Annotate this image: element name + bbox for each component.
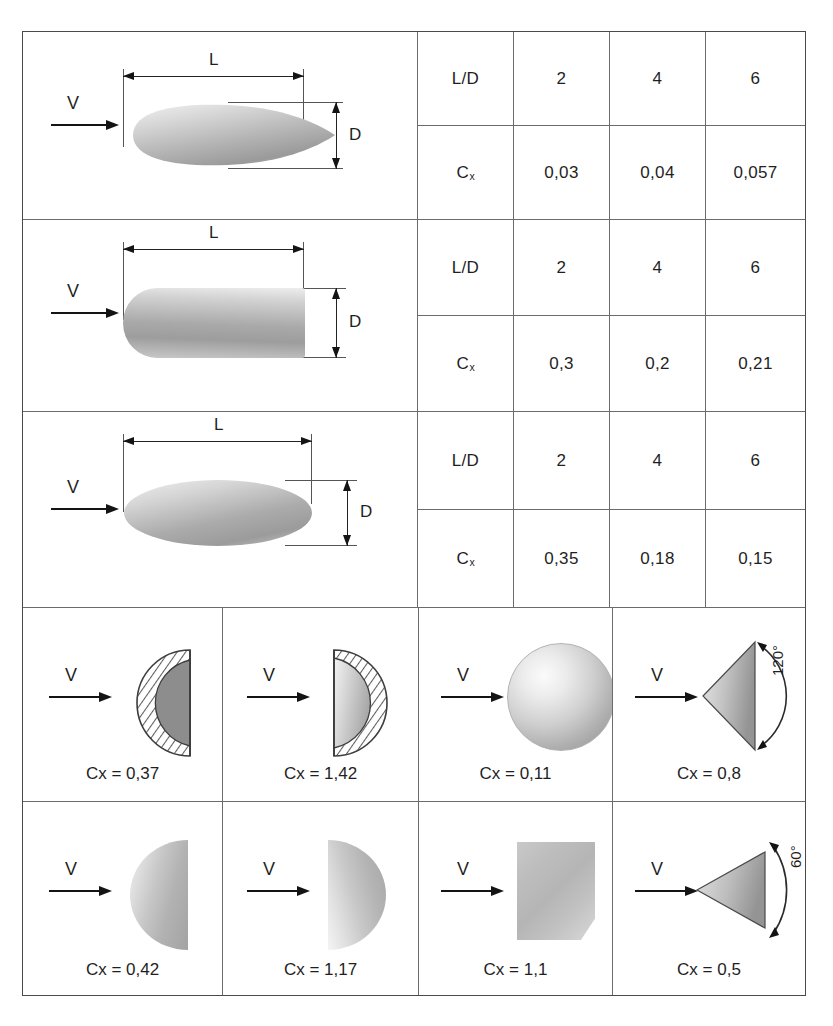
extension-line-bottom-1: [228, 168, 343, 169]
extension-line-top-1: [228, 102, 343, 103]
dimension-label-length-2: L: [205, 223, 222, 243]
figure-cell-cone-60-deg: V 60° Cx = 0,5: [613, 802, 805, 995]
art-sphere: [507, 643, 613, 751]
art-hollow-hemisphere-convex-upstream: [128, 648, 198, 758]
velocity-label: V: [65, 859, 77, 880]
dim-arrow-right-3: [301, 437, 312, 445]
velocity-label: V: [67, 477, 79, 498]
cell-cx-label-3: Cx: [418, 510, 514, 608]
figure-cell-solid-hemisphere-dome-upstream: V Cx = 0,42: [23, 802, 223, 995]
velocity-arrow-icon: [247, 886, 309, 897]
velocity-arrow-icon: [51, 308, 119, 319]
extension-line-left-1: [123, 69, 124, 147]
velocity-arrow-icon: [49, 692, 111, 703]
velocity-label: V: [67, 93, 79, 114]
caption-solid-hemisphere-dome-upstream: Cx = 0,42: [23, 960, 222, 980]
velocity-arrow-icon: [51, 120, 119, 131]
cell-cx-value-1-1: 0,03: [514, 126, 610, 220]
dim-arrow-left-1: [123, 72, 134, 80]
extension-line-left-3: [123, 434, 124, 512]
figure-cell-cube: V Cx = 1,1: [419, 802, 613, 995]
drag-coefficient-chart: V L D L/D 2 4 6 Cx 0,03 0,04 0,057: [22, 31, 806, 996]
dim-arrow-down-2: [332, 347, 340, 358]
shape-panel-round-nosed-cylinder: V L D: [23, 220, 418, 412]
velocity-arrow-icon: [51, 504, 119, 515]
caption-sphere: Cx = 0,11: [419, 764, 612, 784]
dim-arrow-right-2: [293, 245, 304, 253]
cell-ratio-label-3: L/D: [418, 412, 514, 510]
art-cube: [517, 842, 595, 940]
dimension-line-length-1: [123, 76, 304, 77]
velocity-arrow-icon: [441, 886, 503, 897]
cell-ratio-label-1: L/D: [418, 32, 514, 126]
extension-line-left-2: [123, 242, 124, 320]
shape-panel-ellipsoid: V L D: [23, 412, 418, 608]
figure-cell-hollow-hemisphere-convex-upstream: V Cx = 0,37: [23, 608, 223, 802]
cell-cx-value-2-3: 0,21: [706, 316, 805, 412]
velocity-label: V: [457, 665, 469, 686]
dim-arrow-up-2: [332, 288, 340, 299]
cell-cx-label-2: Cx: [418, 316, 514, 412]
velocity-label: V: [263, 859, 275, 880]
figure-cell-sphere: V Cx = 0,11: [419, 608, 613, 802]
cell-ratio-value-2-3: 6: [706, 220, 805, 316]
cell-cx-label-1: Cx: [418, 126, 514, 220]
cell-cx-value-1-3: 0,057: [706, 126, 805, 220]
cell-ratio-value-1-3: 6: [706, 32, 805, 126]
cell-cx-value-2-2: 0,2: [610, 316, 706, 412]
cell-ratio-value-1-1: 2: [514, 32, 610, 126]
caption-cube: Cx = 1,1: [419, 960, 612, 980]
caption-hollow-hemisphere-concave-upstream: Cx = 1,42: [223, 764, 418, 784]
body-round-nosed-cylinder: [123, 288, 305, 358]
velocity-label: V: [457, 859, 469, 880]
velocity-label: V: [263, 665, 275, 686]
figure-cell-solid-hemisphere-flat-upstream: V Cx = 1,17: [223, 802, 419, 995]
velocity-arrow-icon: [635, 692, 697, 703]
art-cone-120-deg: [697, 636, 805, 756]
cell-cx-value-3-1: 0,35: [514, 510, 610, 608]
cell-cx-value-3-2: 0,18: [610, 510, 706, 608]
dim-arrow-down-1: [332, 158, 340, 169]
cx-label-text: Cx: [456, 163, 474, 183]
angle-label-120: 120°: [769, 645, 786, 676]
dim-arrow-left-3: [123, 437, 134, 445]
velocity-arrow-icon: [635, 886, 697, 897]
velocity-label: V: [67, 281, 79, 302]
dimension-line-length-3: [123, 441, 312, 442]
caption-hollow-hemisphere-convex-upstream: Cx = 0,37: [23, 764, 222, 784]
velocity-label: V: [651, 859, 663, 880]
figure-cell-cone-120-deg: V 120° Cx = 0,8: [613, 608, 805, 802]
dimension-label-length-1: L: [205, 50, 222, 70]
cell-ratio-label-2: L/D: [418, 220, 514, 316]
cell-ratio-value-2-2: 4: [610, 220, 706, 316]
cell-cx-value-2-1: 0,3: [514, 316, 610, 412]
caption-cone-120-deg: Cx = 0,8: [613, 764, 805, 784]
velocity-label: V: [651, 665, 663, 686]
caption-cone-60-deg: Cx = 0,5: [613, 960, 805, 980]
velocity-arrow-icon: [49, 886, 111, 897]
dimension-line-length-2: [123, 249, 304, 250]
velocity-arrow-icon: [441, 692, 503, 703]
cell-cx-value-1-2: 0,04: [610, 126, 706, 220]
figure-cell-hollow-hemisphere-concave-upstream: V Cx = 1,: [223, 608, 419, 802]
dim-arrow-up-3: [343, 480, 351, 491]
cell-ratio-value-2-1: 2: [514, 220, 610, 316]
dim-arrow-down-3: [343, 535, 351, 546]
dim-arrow-up-1: [332, 102, 340, 113]
dim-arrow-right-1: [293, 72, 304, 80]
body-ellipsoid: [124, 480, 312, 546]
angle-label-60: 60°: [787, 845, 804, 868]
dimension-label-diameter-3: D: [356, 502, 376, 522]
cell-ratio-value-3-2: 4: [610, 412, 706, 510]
velocity-arrow-icon: [247, 692, 309, 703]
art-hollow-hemisphere-concave-upstream: [326, 648, 396, 758]
art-solid-hemisphere-dome-upstream: [130, 840, 188, 950]
cell-cx-value-3-3: 0,15: [706, 510, 805, 608]
cell-ratio-value-1-2: 4: [610, 32, 706, 126]
dimension-label-diameter-1: D: [345, 125, 365, 145]
cell-ratio-value-3-3: 6: [706, 412, 805, 510]
dimension-label-diameter-2: D: [345, 312, 365, 332]
cell-ratio-value-3-1: 2: [514, 412, 610, 510]
dimension-label-length-3: L: [210, 415, 227, 435]
velocity-label: V: [65, 665, 77, 686]
